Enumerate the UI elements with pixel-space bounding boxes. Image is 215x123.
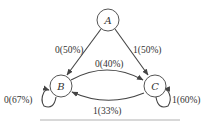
edge-c-to-b (72, 92, 144, 100)
node-c: C (144, 75, 166, 97)
edge-label-b-to-c: 0(40%) (95, 59, 124, 70)
node-c-label: C (151, 81, 159, 92)
edge-b-to-c (71, 70, 143, 80)
node-b-label: B (56, 81, 64, 92)
edge-label-c-self: 1(60%) (172, 95, 201, 106)
state-diagram: A B C 0(50%) 1(50%) 0(40%) 1(33%) 0(67%)… (0, 0, 215, 123)
cropped-caption-artifact (40, 119, 180, 121)
node-a: A (97, 9, 119, 31)
edge-label-c-to-b: 1(33%) (93, 106, 122, 117)
edge-label-b-self: 0(67%) (4, 95, 33, 106)
edge-label-a-to-c: 1(50%) (133, 45, 162, 56)
node-b: B (50, 75, 72, 97)
node-a-label: A (103, 15, 111, 26)
edge-label-a-to-b: 0(50%) (55, 45, 84, 56)
